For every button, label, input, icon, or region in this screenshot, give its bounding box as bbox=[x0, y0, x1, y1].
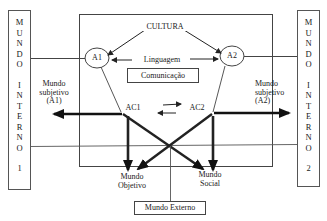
mundo-subjetivo-a2-label: Mundo subjetivo (A2) bbox=[255, 80, 299, 106]
horizontal-line-lower bbox=[31, 145, 297, 147]
linguagem-label: Linguagem bbox=[134, 55, 190, 64]
arrow-cultura-to-a2 bbox=[184, 30, 221, 53]
comunicacao-box: Comunicação bbox=[127, 68, 199, 83]
mundo-interno-2-label: M U N D O I N T E R N O 2 bbox=[297, 17, 320, 174]
line: (A1) bbox=[46, 96, 61, 105]
letter: M bbox=[297, 17, 320, 28]
letter: D bbox=[297, 49, 320, 60]
letter: O bbox=[8, 143, 31, 154]
line: Social bbox=[200, 179, 220, 188]
letter: T bbox=[297, 101, 320, 112]
cultura-label: CULTURA bbox=[140, 22, 190, 31]
arrow-ac1-to-social bbox=[123, 114, 203, 169]
letter: N bbox=[8, 132, 31, 143]
arrow-ac1-to-ac2 bbox=[163, 104, 181, 105]
letter: R bbox=[8, 122, 31, 133]
letter: I bbox=[8, 80, 31, 91]
line-a2-to-ac2 bbox=[213, 66, 225, 112]
line-a1-to-ac1 bbox=[101, 67, 121, 112]
mundo-social-label: Mundo Social bbox=[190, 171, 230, 188]
letter: 2 bbox=[297, 163, 320, 174]
spacer bbox=[297, 70, 320, 80]
letter: N bbox=[8, 38, 31, 49]
arrow-cultura-to-a1 bbox=[108, 30, 145, 55]
diagram-canvas bbox=[0, 0, 327, 221]
line: Objetivo bbox=[118, 181, 146, 190]
mundo-interno-1-label: M U N D O I N T E R N O 1 bbox=[8, 17, 31, 174]
a2-label: A2 bbox=[223, 51, 241, 60]
letter: N bbox=[297, 38, 320, 49]
spacer bbox=[297, 153, 320, 163]
spacer bbox=[8, 70, 31, 80]
letter: O bbox=[297, 143, 320, 154]
letter: E bbox=[8, 111, 31, 122]
spacer bbox=[8, 153, 31, 163]
ac1-label: AC1 bbox=[122, 103, 144, 112]
arrow-ac2-to-objetivo bbox=[138, 114, 212, 169]
mundo-subjetivo-a1-label: Mundo subjetivo (A1) bbox=[32, 80, 76, 106]
letter: M bbox=[8, 17, 31, 28]
ac2-label: AC2 bbox=[186, 103, 208, 112]
letter: N bbox=[297, 90, 320, 101]
letter: U bbox=[8, 28, 31, 39]
letter: R bbox=[297, 122, 320, 133]
central-box bbox=[80, 15, 273, 167]
letter: I bbox=[297, 80, 320, 91]
letter: D bbox=[8, 49, 31, 60]
letter: 1 bbox=[8, 163, 31, 174]
letter: N bbox=[8, 90, 31, 101]
letter: U bbox=[297, 28, 320, 39]
line: (A2) bbox=[255, 96, 270, 105]
letter: O bbox=[297, 59, 320, 70]
mundo-externo-box: Mundo Externo bbox=[134, 201, 206, 215]
letter: O bbox=[8, 59, 31, 70]
letter: N bbox=[297, 132, 320, 143]
mundo-objetivo-label: Mundo Objetivo bbox=[112, 173, 152, 190]
letter: E bbox=[297, 111, 320, 122]
letter: T bbox=[8, 101, 31, 112]
a1-label: A1 bbox=[88, 53, 106, 62]
